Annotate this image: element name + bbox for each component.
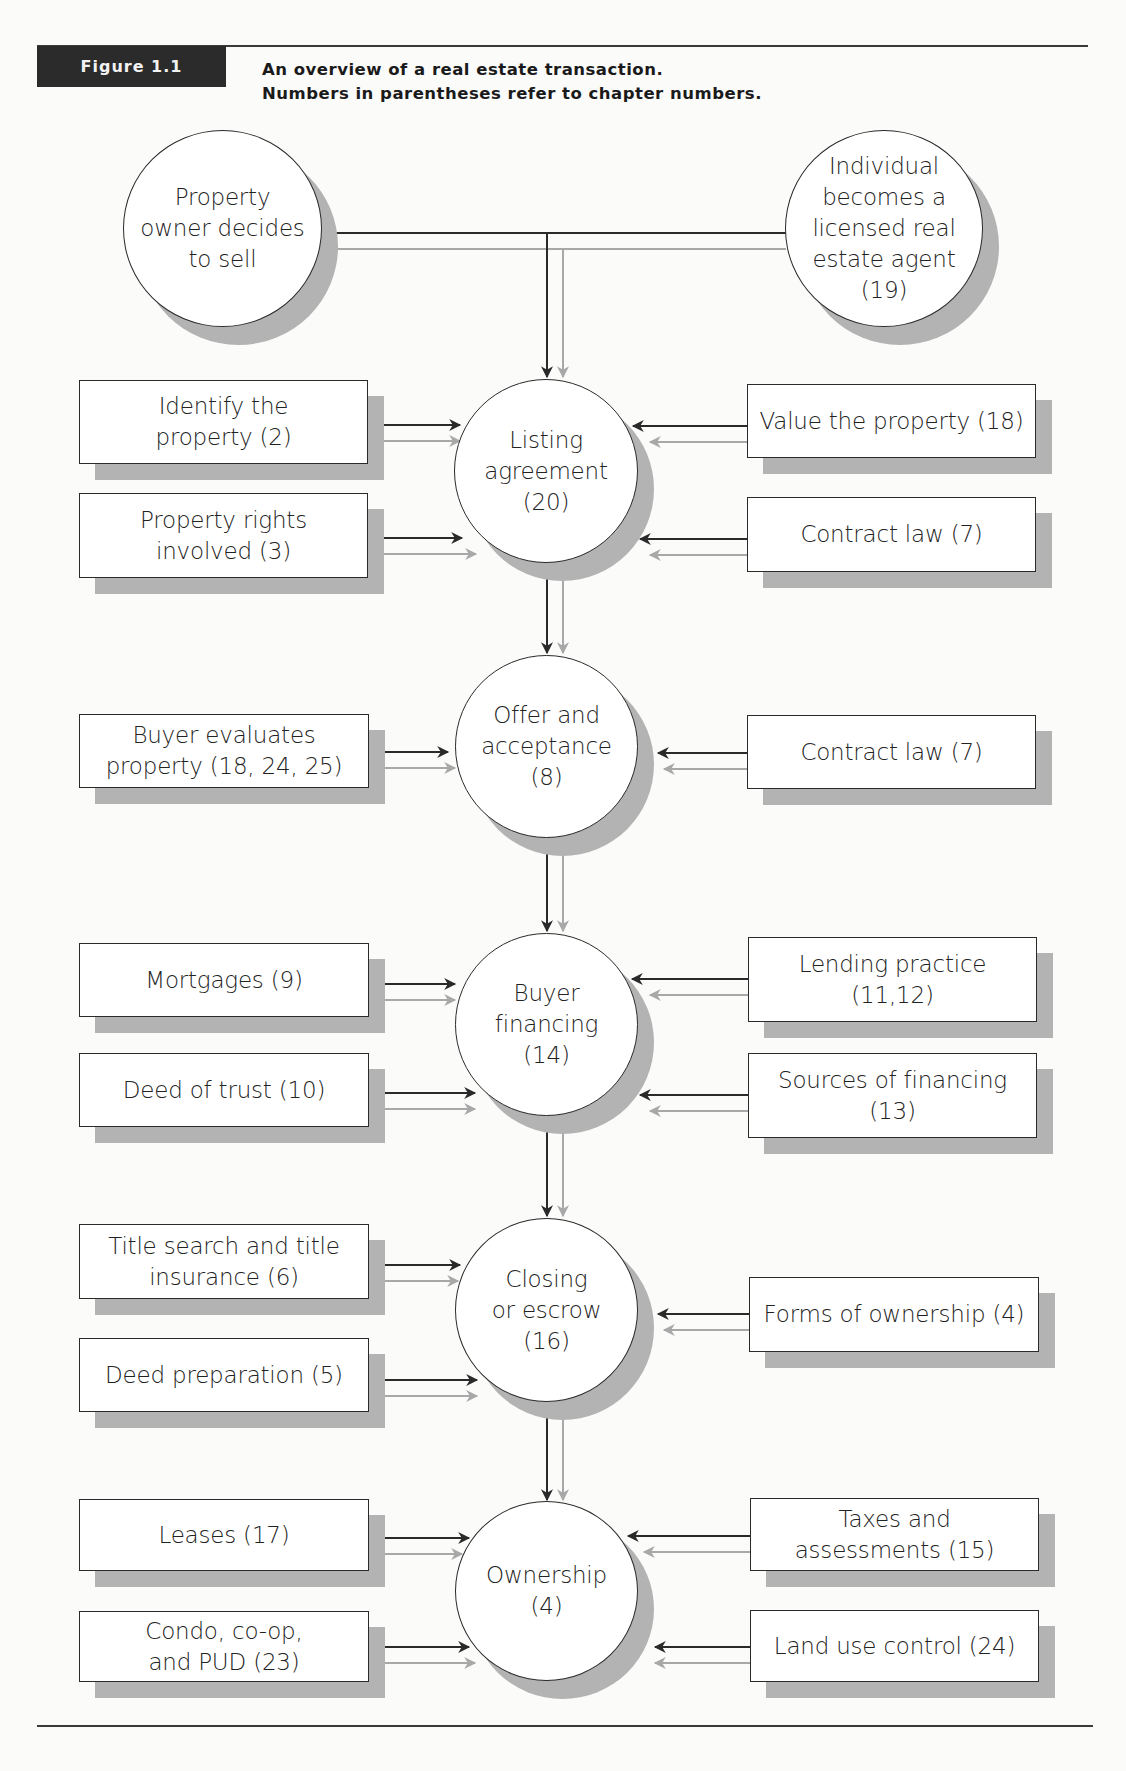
- node-text: Individual: [812, 151, 955, 182]
- node-buyer-financing: Buyer financing (14): [455, 933, 638, 1116]
- box-text: and PUD (23): [145, 1647, 302, 1678]
- node-text: estate agent: [812, 244, 955, 275]
- box-text: Contract law (7): [800, 737, 982, 768]
- input-value-property: Value the property (18): [747, 384, 1036, 458]
- node-text: (14): [495, 1040, 598, 1071]
- box-text: Condo, co-op,: [145, 1616, 302, 1647]
- box-text: Value the property (18): [760, 406, 1024, 437]
- node-text: to sell: [140, 244, 304, 275]
- node-text: or escrow: [492, 1295, 602, 1326]
- input-property-rights: Property rights involved (3): [79, 493, 368, 578]
- input-taxes-assessments: Taxes and assessments (15): [750, 1498, 1039, 1571]
- input-land-use-control: Land use control (24): [750, 1610, 1039, 1682]
- node-seller-decides: Property owner decides to sell: [123, 130, 322, 327]
- box-text: Deed preparation (5): [105, 1360, 343, 1391]
- box-text: (13): [778, 1096, 1007, 1127]
- input-condo-coop-pud: Condo, co-op, and PUD (23): [79, 1611, 369, 1682]
- box-text: Contract law (7): [800, 519, 982, 550]
- box-text: Land use control (24): [774, 1631, 1015, 1662]
- input-contract-law-listing: Contract law (7): [747, 497, 1036, 572]
- input-lending-practice: Lending practice (11,12): [748, 937, 1037, 1022]
- input-mortgages: Mortgages (9): [79, 943, 369, 1017]
- node-text: owner decides: [140, 213, 304, 244]
- box-text: Lending practice: [799, 949, 987, 980]
- node-text: (20): [484, 487, 608, 518]
- input-contract-law-offer: Contract law (7): [747, 715, 1036, 789]
- node-text: Offer and: [481, 700, 612, 731]
- input-leases: Leases (17): [79, 1499, 369, 1571]
- box-text: Deed of trust (10): [123, 1075, 325, 1106]
- node-offer-acceptance: Offer and acceptance (8): [455, 655, 638, 838]
- node-agent-licensed: Individual becomes a licensed real estat…: [785, 130, 983, 327]
- input-title-search: Title search and title insurance (6): [79, 1224, 369, 1299]
- box-text: Leases (17): [158, 1520, 289, 1551]
- node-text: Listing: [484, 425, 608, 456]
- box-text: Title search and title: [108, 1231, 339, 1262]
- node-text: agreement: [484, 456, 608, 487]
- node-text: acceptance: [481, 731, 612, 762]
- input-buyer-evaluates: Buyer evaluates property (18, 24, 25): [79, 714, 369, 788]
- box-text: Sources of financing: [778, 1065, 1007, 1096]
- node-listing-agreement: Listing agreement (20): [454, 379, 638, 563]
- node-text: (19): [812, 275, 955, 306]
- node-text: (8): [481, 762, 612, 793]
- node-text: Buyer: [495, 978, 598, 1009]
- box-text: property (2): [156, 422, 292, 453]
- node-text: financing: [495, 1009, 598, 1040]
- input-deed-of-trust: Deed of trust (10): [79, 1053, 369, 1127]
- node-closing-escrow: Closing or escrow (16): [455, 1218, 638, 1402]
- input-sources-financing: Sources of financing (13): [748, 1053, 1037, 1138]
- box-text: Identify the: [156, 391, 292, 422]
- input-identify-property: Identify the property (2): [79, 380, 368, 464]
- box-text: Taxes and: [795, 1504, 995, 1535]
- node-text: Property: [140, 182, 304, 213]
- node-text: Ownership: [486, 1560, 607, 1591]
- box-text: Mortgages (9): [145, 965, 303, 996]
- box-text: Buyer evaluates: [106, 720, 343, 751]
- node-text: becomes a: [812, 182, 955, 213]
- box-text: assessments (15): [795, 1535, 995, 1566]
- box-text: property (18, 24, 25): [106, 751, 343, 782]
- node-ownership: Ownership (4): [455, 1501, 638, 1681]
- node-text: (16): [492, 1326, 602, 1357]
- box-text: involved (3): [140, 536, 307, 567]
- node-text: Closing: [492, 1264, 602, 1295]
- node-text: (4): [486, 1591, 607, 1622]
- box-text: Property rights: [140, 505, 307, 536]
- box-text: insurance (6): [108, 1262, 339, 1293]
- box-text: (11,12): [799, 980, 987, 1011]
- input-forms-ownership: Forms of ownership (4): [749, 1277, 1039, 1352]
- input-deed-preparation: Deed preparation (5): [79, 1338, 369, 1412]
- node-text: licensed real: [812, 213, 955, 244]
- box-text: Forms of ownership (4): [764, 1299, 1025, 1330]
